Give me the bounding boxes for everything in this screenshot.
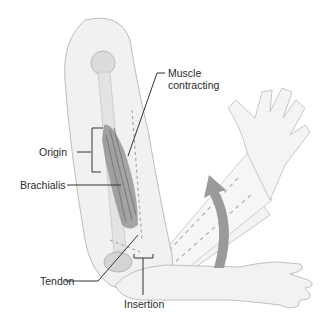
label-contracting: contracting (168, 79, 219, 91)
label-brachialis: Brachialis (20, 179, 66, 191)
raised-forearm (150, 88, 310, 285)
label-tendon: Tendon (40, 275, 74, 287)
label-muscle: Muscle (168, 67, 219, 79)
label-muscle-contracting: Muscle contracting (168, 67, 219, 91)
upper-arm (65, 18, 173, 294)
label-insertion: Insertion (124, 298, 164, 310)
label-origin: Origin (39, 146, 67, 158)
